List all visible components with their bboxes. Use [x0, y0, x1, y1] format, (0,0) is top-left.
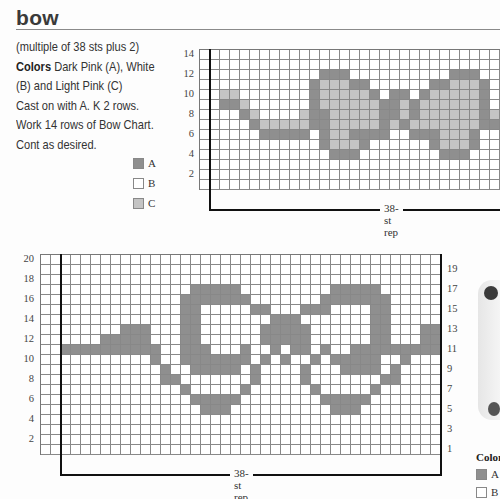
stitch-cell [321, 345, 331, 355]
stitch-cell [380, 80, 390, 90]
stitch-cell [121, 385, 131, 395]
stitch-cell [440, 150, 450, 160]
stitch-cell [401, 275, 411, 285]
stitch-cell [420, 160, 430, 170]
stitch-cell [410, 70, 420, 80]
stitch-cell [41, 285, 51, 295]
stitch-cell [131, 395, 141, 405]
stitch-cell [410, 120, 420, 130]
stitch-cell [351, 435, 361, 445]
stitch-cell [330, 130, 340, 140]
stitch-cell [470, 120, 480, 130]
stitch-cell [370, 170, 380, 180]
stitch-cell [240, 180, 250, 190]
stitch-cell [141, 285, 151, 295]
stitch-cell [261, 295, 271, 305]
stitch-cell [360, 120, 370, 130]
stitch-cell [480, 130, 490, 140]
stitch-cell [450, 180, 460, 190]
stitch-cell [211, 345, 221, 355]
row-number-label: 11 [447, 343, 465, 354]
stitch-cell [270, 160, 280, 170]
stitch-cell [230, 140, 240, 150]
stitch-cell [71, 285, 81, 295]
stitch-cell [101, 415, 111, 425]
stitch-cell [321, 375, 331, 385]
stitch-cell [61, 355, 71, 365]
stitch-cell [71, 385, 81, 395]
stitch-cell [331, 325, 341, 335]
swatch-b-icon [476, 487, 487, 498]
stitch-cell [450, 50, 460, 60]
stitch-cell [350, 50, 360, 60]
pattern-instructions: (multiple of 38 sts plus 2) Colors Dark … [16, 38, 183, 155]
stitch-cell [480, 110, 490, 120]
stitch-cell [450, 130, 460, 140]
stitch-cell [111, 405, 121, 415]
stitch-cell [221, 425, 231, 435]
stitch-cell [211, 265, 221, 275]
stitch-cell [231, 355, 241, 365]
stitch-cell [181, 325, 191, 335]
stitch-cell [281, 305, 291, 315]
stitch-cell [101, 425, 111, 435]
stitch-cell [310, 130, 320, 140]
stitch-cell [460, 80, 470, 90]
stitch-cell [131, 275, 141, 285]
stitch-cell [340, 120, 350, 130]
stitch-cell [261, 385, 271, 395]
stitch-cell [381, 365, 391, 375]
stitch-cell [330, 50, 340, 60]
stitch-cell [321, 315, 331, 325]
stitch-cell [91, 315, 101, 325]
stitch-cell [241, 435, 251, 445]
stitch-cell [220, 140, 230, 150]
stitch-cell [131, 365, 141, 375]
photo-legend-a: A [476, 468, 499, 480]
stitch-cell [430, 60, 440, 70]
stitch-cell [301, 295, 311, 305]
stitch-cell [361, 295, 371, 305]
stitch-cell [270, 130, 280, 140]
stitch-cell [320, 80, 330, 90]
stitch-cell [101, 305, 111, 315]
stitch-cell [391, 305, 401, 315]
stitch-cell [351, 445, 361, 455]
stitch-cell [141, 335, 151, 345]
stitch-cell [291, 335, 301, 345]
stitch-cell [341, 385, 351, 395]
stitch-cell [61, 255, 71, 265]
stitch-cell [390, 70, 400, 80]
stitch-cell [141, 425, 151, 435]
stitch-cell [201, 285, 211, 295]
stitch-cell [401, 285, 411, 295]
stitch-cell [241, 345, 251, 355]
stitch-cell [370, 100, 380, 110]
stitch-cell [131, 315, 141, 325]
row-number-label: 14 [176, 48, 194, 59]
stitch-cell [211, 445, 221, 455]
stitch-cell [61, 335, 71, 345]
stitch-cell [240, 150, 250, 160]
stitch-cell [411, 405, 421, 415]
stitch-cell [291, 365, 301, 375]
stitch-cell [101, 395, 111, 405]
stitch-cell [61, 365, 71, 375]
stitch-cell [430, 100, 440, 110]
stitch-cell [310, 90, 320, 100]
stitch-cell [401, 325, 411, 335]
continue-instruction: Cont as desired. [16, 136, 183, 156]
stitch-cell [221, 395, 231, 405]
stitch-cell [260, 70, 270, 80]
stitch-cell [221, 315, 231, 325]
stitch-cell [261, 255, 271, 265]
stitch-cell [410, 160, 420, 170]
stitch-cell [221, 415, 231, 425]
stitch-cell [440, 170, 450, 180]
stitch-cell [220, 120, 230, 130]
stitch-cell [141, 375, 151, 385]
stitch-cell [301, 415, 311, 425]
stitch-cell [340, 60, 350, 70]
stitch-cell [221, 325, 231, 335]
stitch-cell [251, 325, 261, 335]
